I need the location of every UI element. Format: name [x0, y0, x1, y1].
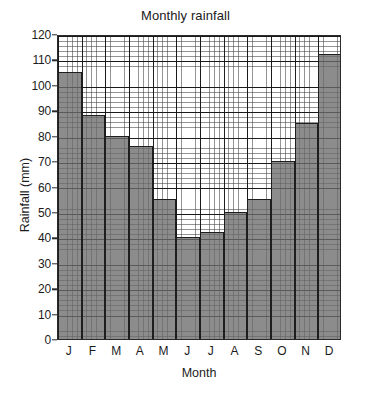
- bar-march: [105, 136, 129, 339]
- x-tick-label-october: O: [277, 344, 286, 358]
- x-tick-label-september: S: [254, 344, 262, 358]
- y-tick-mark-40: [52, 238, 57, 239]
- y-tick-mark-90: [52, 111, 57, 112]
- y-tick-label-10: 10: [17, 308, 51, 322]
- y-tick-mark-60: [52, 187, 57, 188]
- y-tick-mark-70: [52, 161, 57, 162]
- bar-october: [271, 161, 295, 339]
- y-tick-label-0: 0: [17, 333, 51, 347]
- x-tick-label-april: A: [136, 344, 144, 358]
- bar-may: [153, 199, 177, 339]
- x-tick-label-march: M: [111, 344, 121, 358]
- x-axis-title: Month: [57, 366, 341, 380]
- bar-november: [295, 123, 319, 339]
- y-tick-mark-80: [52, 136, 57, 137]
- plot-area: [57, 35, 341, 340]
- x-tick-label-july: J: [208, 344, 214, 358]
- rainfall-bar-chart-figure: Monthly rainfall 01020304050607080901001…: [0, 0, 371, 396]
- y-tick-mark-50: [52, 212, 57, 213]
- y-tick-label-110: 110: [17, 53, 51, 67]
- y-tick-label-120: 120: [17, 28, 51, 42]
- bar-july: [200, 232, 224, 339]
- y-tick-label-20: 20: [17, 282, 51, 296]
- y-tick-mark-30: [52, 263, 57, 264]
- bar-december: [318, 54, 341, 339]
- bar-january: [58, 72, 82, 339]
- bar-april: [129, 146, 153, 339]
- y-tick-mark-120: [52, 34, 57, 35]
- x-tick-label-january: J: [66, 344, 72, 358]
- x-tick-label-june: J: [184, 344, 190, 358]
- y-tick-mark-0: [52, 339, 57, 340]
- x-tick-label-february: F: [89, 344, 96, 358]
- y-tick-mark-10: [52, 314, 57, 315]
- y-axis-title: Rainfall (mm): [18, 115, 32, 275]
- chart-title: Monthly rainfall: [0, 8, 371, 23]
- x-tick-label-november: N: [301, 344, 310, 358]
- bar-february: [82, 115, 106, 339]
- x-tick-label-may: M: [159, 344, 169, 358]
- y-tick-label-100: 100: [17, 79, 51, 93]
- y-tick-mark-20: [52, 288, 57, 289]
- x-tick-label-august: A: [230, 344, 238, 358]
- y-tick-mark-100: [52, 85, 57, 86]
- y-tick-mark-110: [52, 60, 57, 61]
- bar-june: [176, 237, 200, 339]
- bar-august: [224, 212, 248, 339]
- bar-series: [58, 36, 340, 339]
- x-tick-label-december: D: [325, 344, 334, 358]
- bar-september: [247, 199, 271, 339]
